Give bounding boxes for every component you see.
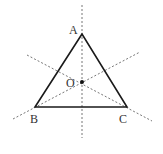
- label-b: B: [30, 112, 38, 126]
- label-a: A: [69, 23, 78, 37]
- triangle-diagram: A B C O: [0, 0, 163, 154]
- symmetry-axis-b: [13, 52, 140, 119]
- label-c: C: [119, 112, 127, 126]
- symmetry-axis-c: [27, 55, 152, 121]
- label-o: O: [66, 76, 75, 90]
- center-point-o: [80, 80, 84, 84]
- triangle-abc: [35, 34, 127, 107]
